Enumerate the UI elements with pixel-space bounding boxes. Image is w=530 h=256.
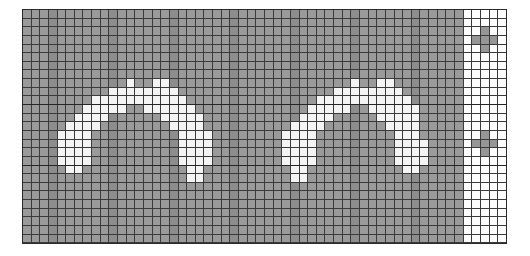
- grid-cell: [204, 19, 212, 27]
- grid-cell: [490, 10, 498, 18]
- grid-cell: [446, 27, 454, 35]
- grid-cell: [40, 157, 48, 165]
- grid-cell: [300, 27, 308, 35]
- grid-cell: [282, 36, 290, 44]
- grid-cell: [420, 174, 428, 182]
- grid-cell: [109, 140, 117, 148]
- grid-cell: [179, 36, 187, 44]
- grid-cell: [75, 45, 83, 53]
- grid-cell: [343, 235, 351, 243]
- grid-cell: [498, 140, 506, 148]
- grid-cell: [248, 45, 256, 53]
- grid-cell: [161, 96, 169, 104]
- grid-cell: [75, 140, 83, 148]
- grid-cell: [317, 122, 325, 130]
- grid-cell: [170, 53, 178, 61]
- grid-cell: [282, 10, 290, 18]
- grid-cell: [256, 70, 264, 78]
- grid-cell: [127, 235, 135, 243]
- grid-cell: [386, 45, 394, 53]
- grid-cell: [179, 96, 187, 104]
- grid-cell: [40, 174, 48, 182]
- grid-cell: [23, 10, 31, 18]
- grid-cell: [274, 200, 282, 208]
- grid-cell: [204, 183, 212, 191]
- grid-cell: [92, 157, 100, 165]
- grid-cell: [481, 96, 489, 104]
- grid-cell: [481, 122, 489, 130]
- grid-cell: [32, 36, 40, 44]
- grid-cell: [351, 131, 359, 139]
- grid-cell: [230, 191, 238, 199]
- grid-cell: [32, 200, 40, 208]
- grid-cell: [49, 209, 57, 217]
- grid-cell: [377, 10, 385, 18]
- grid-cell: [351, 174, 359, 182]
- grid-cell: [377, 191, 385, 199]
- grid-cell: [274, 183, 282, 191]
- grid-cell: [153, 140, 161, 148]
- grid-cell: [230, 62, 238, 70]
- grid-cell: [248, 148, 256, 156]
- grid-cell: [438, 235, 446, 243]
- grid-cell: [464, 62, 472, 70]
- grid-cell: [196, 174, 204, 182]
- grid-cell: [325, 209, 333, 217]
- grid-cell: [325, 131, 333, 139]
- grid-cell: [135, 10, 143, 18]
- grid-cell: [300, 157, 308, 165]
- grid-cell: [248, 200, 256, 208]
- grid-cell: [308, 53, 316, 61]
- grid-cell: [325, 19, 333, 27]
- grid-cell: [230, 19, 238, 27]
- grid-cell: [412, 226, 420, 234]
- grid-cell: [92, 217, 100, 225]
- grid-cell: [403, 36, 411, 44]
- grid-cell: [351, 209, 359, 217]
- grid-cell: [109, 131, 117, 139]
- grid-cell: [325, 96, 333, 104]
- grid-cell: [179, 148, 187, 156]
- grid-cell: [75, 79, 83, 87]
- figure-canvas: [0, 0, 530, 256]
- grid-cell: [230, 148, 238, 156]
- grid-cell: [179, 174, 187, 182]
- grid-cell: [161, 235, 169, 243]
- grid-cell: [308, 70, 316, 78]
- grid-cell: [179, 105, 187, 113]
- grid-cell: [360, 131, 368, 139]
- grid-cell: [101, 148, 109, 156]
- grid-cell: [472, 45, 480, 53]
- grid-cell: [213, 226, 221, 234]
- grid-cell: [282, 166, 290, 174]
- grid-cell: [92, 191, 100, 199]
- grid-cell: [118, 148, 126, 156]
- grid-cell: [204, 114, 212, 122]
- grid-cell: [144, 235, 152, 243]
- grid-cell: [369, 166, 377, 174]
- grid-cell: [369, 10, 377, 18]
- grid-cell: [204, 27, 212, 35]
- grid-cell: [40, 105, 48, 113]
- grid-cell: [403, 157, 411, 165]
- grid-cell: [222, 200, 230, 208]
- grid-cell: [498, 209, 506, 217]
- grid-cell: [360, 157, 368, 165]
- grid-cell: [204, 70, 212, 78]
- grid-cell: [187, 88, 195, 96]
- grid-cell: [481, 140, 489, 148]
- grid-cell: [49, 27, 57, 35]
- grid-cell: [23, 174, 31, 182]
- grid-cell: [109, 174, 117, 182]
- grid-cell: [498, 131, 506, 139]
- grid-cell: [455, 19, 463, 27]
- grid-cell: [291, 157, 299, 165]
- grid-cell: [472, 114, 480, 122]
- grid-cell: [472, 53, 480, 61]
- grid-cell: [66, 235, 74, 243]
- grid-cell: [49, 131, 57, 139]
- grid-cell: [127, 88, 135, 96]
- grid-cell: [455, 122, 463, 130]
- grid-cell: [386, 235, 394, 243]
- grid-cell: [300, 131, 308, 139]
